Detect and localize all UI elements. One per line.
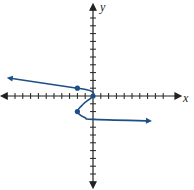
marked-point [75,109,80,114]
curve-right-arrow-icon [146,118,152,124]
x-axis-left-arrow-icon [1,93,7,99]
y-axis-down-arrow-icon [90,182,96,188]
curve [7,76,152,124]
marked-point [90,93,95,98]
y-axis-up-arrow-icon [90,4,96,10]
marked-point [75,86,80,91]
x-axis-label: x [183,91,188,106]
coordinate-plane [0,0,194,190]
x-axis-right-arrow-icon [175,93,181,99]
y-axis-label: y [100,0,105,15]
curve-path [9,78,150,121]
curve-left-arrow-icon [7,76,13,82]
